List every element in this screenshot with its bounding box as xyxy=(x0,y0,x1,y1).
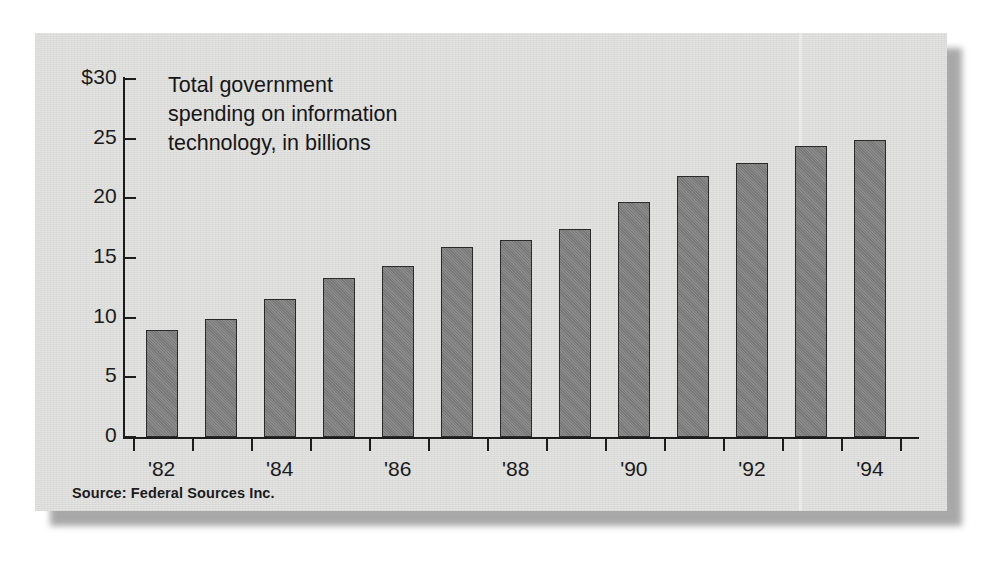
chart-panel: Total government spending on information… xyxy=(35,33,947,511)
x-axis-tick-label: '88 xyxy=(481,457,551,481)
x-axis-tick xyxy=(841,439,843,451)
x-axis-tick xyxy=(369,439,371,451)
x-axis-tick xyxy=(546,439,548,451)
y-axis-tick-label: 25 xyxy=(53,125,117,149)
x-axis-tick xyxy=(782,439,784,451)
x-axis-tick xyxy=(605,439,607,451)
x-axis-tick-label: '92 xyxy=(717,457,787,481)
bar xyxy=(677,176,709,437)
bar xyxy=(736,163,768,437)
bar xyxy=(500,240,532,437)
x-axis-tick xyxy=(664,439,666,451)
y-axis-tick-label: $30 xyxy=(53,65,117,89)
x-axis-tick-label: '82 xyxy=(127,457,197,481)
bar xyxy=(441,247,473,437)
x-axis-tick-label: '86 xyxy=(363,457,433,481)
bar xyxy=(382,266,414,437)
y-axis-tick-label: 20 xyxy=(53,184,117,208)
bar xyxy=(264,299,296,437)
y-axis-tick-label: 5 xyxy=(53,363,117,387)
plot-area: 0510152025$30'82'84'86'88'90'92'94 xyxy=(35,33,947,511)
x-axis-tick-label: '94 xyxy=(835,457,905,481)
bar xyxy=(323,278,355,437)
y-axis-tick xyxy=(125,317,136,319)
x-axis-tick-label: '84 xyxy=(245,457,315,481)
x-axis-tick xyxy=(428,439,430,451)
bar xyxy=(559,229,591,437)
source-note: Source: Federal Sources Inc. xyxy=(72,485,275,501)
y-axis-tick xyxy=(125,376,136,378)
x-axis-tick xyxy=(900,439,902,451)
bar xyxy=(795,146,827,437)
y-axis-tick-label: 0 xyxy=(53,423,117,447)
y-axis-tick xyxy=(125,138,136,140)
bar xyxy=(205,319,237,437)
x-axis-tick xyxy=(133,439,135,451)
bar xyxy=(146,330,178,437)
y-axis-tick xyxy=(125,78,136,80)
y-axis-tick xyxy=(125,436,136,438)
y-axis-tick-label: 10 xyxy=(53,304,117,328)
y-axis-tick-label: 15 xyxy=(53,244,117,268)
x-axis-line xyxy=(123,437,919,439)
x-axis-tick xyxy=(487,439,489,451)
x-axis-tick xyxy=(251,439,253,451)
bar xyxy=(854,140,886,437)
x-axis-tick xyxy=(192,439,194,451)
x-axis-tick xyxy=(723,439,725,451)
x-axis-tick xyxy=(310,439,312,451)
x-axis-tick-label: '90 xyxy=(599,457,669,481)
y-axis-tick xyxy=(125,257,136,259)
page-root: Total government spending on information… xyxy=(0,0,1001,576)
y-axis-tick xyxy=(125,197,136,199)
bar xyxy=(618,202,650,437)
